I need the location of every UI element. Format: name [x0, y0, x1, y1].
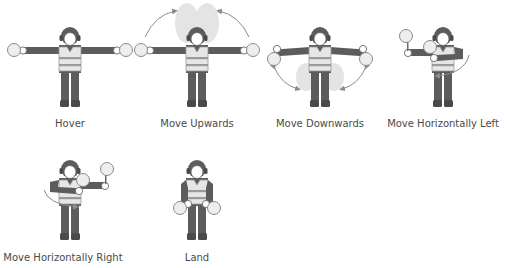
signal-label: Move Horizontally Right	[3, 252, 122, 263]
down-arrow-right-icon	[342, 67, 366, 89]
signal-move-upwards: Move Upwards	[130, 0, 260, 135]
signal-move-horizontally-left: Move Horizontally Left	[380, 0, 505, 135]
move-upwards-figure-illustration	[130, 0, 260, 135]
up-arrow-right-icon	[219, 11, 249, 37]
land-figure-illustration	[130, 150, 260, 268]
signal-land: Land	[130, 150, 260, 268]
signal-move-horizontally-right: Move Horizontally Right	[0, 150, 130, 268]
down-arrow-left-icon	[274, 67, 298, 89]
signal-label: Move Horizontally Left	[387, 118, 499, 129]
signal-label: Hover	[55, 118, 85, 129]
signal-move-downwards: Move Downwards	[255, 0, 385, 135]
signal-label: Move Downwards	[276, 118, 364, 129]
move-horizontally-right-figure-illustration	[0, 150, 130, 268]
signal-hover: Hover	[0, 0, 130, 135]
move-horizontally-left-figure-illustration	[380, 0, 505, 135]
signal-label: Move Upwards	[160, 118, 233, 129]
hover-figure-illustration	[0, 0, 130, 135]
move-downwards-figure-illustration	[255, 0, 385, 135]
signal-label: Land	[185, 252, 209, 263]
up-arrow-left-icon	[145, 11, 175, 37]
